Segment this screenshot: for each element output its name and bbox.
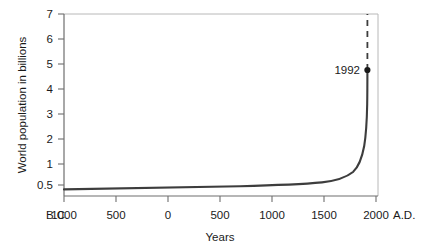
- y-tick-label-7: 7: [47, 8, 53, 20]
- data-point-marker-1992: [364, 67, 370, 73]
- y-tick-label-1: 1: [47, 158, 53, 170]
- y-tick-label-3: 3: [47, 108, 53, 120]
- x-tick-label-bc1000: 1000: [51, 209, 77, 221]
- y-tick-label-6: 6: [47, 33, 53, 45]
- y-tick-label-2: 2: [47, 133, 53, 145]
- y-tick-label-5: 5: [47, 58, 53, 70]
- y-axis-title: World population in billions: [16, 36, 28, 173]
- x-axis-ad-label: A.D.: [393, 209, 415, 221]
- y-tick-label-0point5: 0.5: [37, 179, 53, 191]
- annotation-label-1992: 1992: [334, 64, 360, 76]
- x-tick-label-ad500: 500: [210, 209, 229, 221]
- x-axis-title: Years: [206, 231, 235, 243]
- x-tick-label-bc500: 500: [106, 209, 125, 221]
- x-tick-label-ad2000: 2000: [363, 209, 389, 221]
- chart-page: 7 6 5 4 3 2 1 0.5 B.C. 1000 500 0 500 10…: [0, 0, 421, 251]
- world-population-chart: 7 6 5 4 3 2 1 0.5 B.C. 1000 500 0 500 10…: [0, 0, 421, 251]
- y-tick-label-4: 4: [47, 83, 54, 95]
- x-tick-label-ad1500: 1500: [311, 209, 337, 221]
- x-tick-label-0: 0: [165, 209, 171, 221]
- x-tick-label-ad1000: 1000: [259, 209, 285, 221]
